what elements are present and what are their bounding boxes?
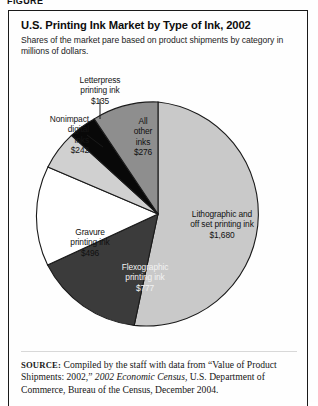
figure-caption: FIGURE: [7, 0, 43, 5]
slice-label-all-other: All other inks $276: [120, 116, 166, 158]
slice-callout-nonimpact: Nonimpact digital inks $242: [11, 114, 89, 156]
slice-label-gravure: Gravure printing ink $496: [50, 227, 130, 258]
figure-frame: U.S. Printing Ink Market by Type of Ink,…: [8, 10, 308, 406]
source-label: SOURCE:: [21, 360, 61, 370]
source-note: SOURCE: Compiled by the staff with data …: [21, 359, 293, 396]
slice-label-flexographic: Flexographic printing ink $777: [102, 262, 188, 293]
source-citation: 2002 Economic Census,: [95, 371, 187, 382]
slice-label-lithographic: Lithographic and off set printing ink $1…: [168, 209, 276, 240]
pie-chart: Letterpress printing ink $135 Nonimpact …: [9, 11, 308, 331]
slice-callout-letterpress: Letterpress printing ink $135: [57, 75, 143, 106]
source-divider: [21, 351, 297, 352]
